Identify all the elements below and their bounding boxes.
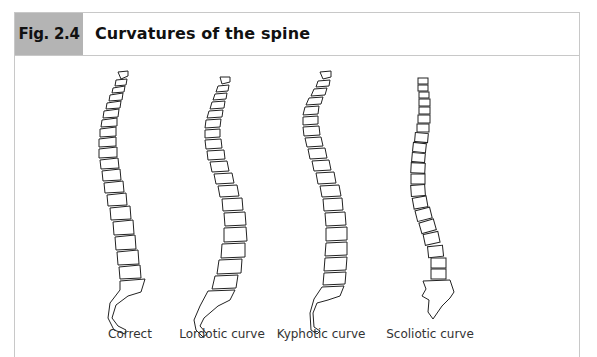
- caption-kyphotic: Kyphotic curve: [277, 327, 366, 341]
- caption-lordotic: Lordotic curve: [179, 327, 265, 341]
- spine-kyphotic-illustration: [303, 71, 347, 334]
- spine-lordotic-illustration: [194, 77, 247, 337]
- caption-correct: Correct: [108, 327, 152, 341]
- caption-scoliotic: Scoliotic curve: [386, 327, 474, 341]
- spine-illustrations: [0, 0, 597, 357]
- spine-scoliotic-illustration: [411, 78, 454, 319]
- spine-correct-illustration: [99, 71, 145, 334]
